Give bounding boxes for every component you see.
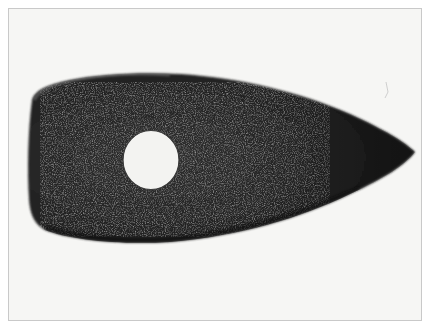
background-mark: [385, 82, 388, 98]
stone-tool: [0, 0, 432, 329]
stone-tool-photo: [0, 0, 432, 329]
shaft-hole: [123, 131, 179, 190]
